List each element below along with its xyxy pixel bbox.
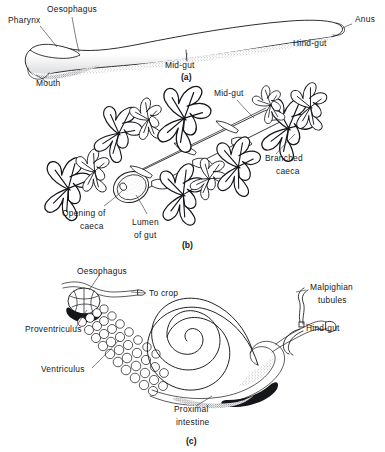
malpighian-tubules-c: [283, 288, 308, 355]
label-to-crop: To crop: [149, 288, 178, 298]
label-opening-of-caeca-1: Opening of: [62, 208, 106, 218]
label-malpighian-tubules-2: tubules: [318, 295, 347, 305]
label-anus: Anus: [355, 14, 375, 24]
label-mouth: Mouth: [36, 78, 61, 88]
label-lumen-of-gut-1: Lumen: [132, 217, 159, 227]
leader-midgut-b: [237, 100, 254, 118]
label-oesophagus-a: Oesophagus: [47, 4, 97, 14]
label-pharynx: Pharynx: [8, 15, 41, 25]
label-mid-gut-a: Mid-gut: [165, 60, 195, 70]
intestine-shade-light-c: [238, 356, 273, 387]
panel-c-illustration: [62, 274, 336, 408]
leader-anus: [343, 24, 352, 28]
label-ventriculus: Ventriculus: [41, 364, 85, 374]
label-proximal-intestine-1: Proximal: [174, 404, 209, 414]
panel-c-caption: (c): [186, 436, 197, 446]
anatomical-figure: Pharynx Oesophagus Mouth Mid-gut Hind-gu…: [0, 0, 385, 452]
label-branched-caeca-2: caeca: [276, 166, 300, 176]
label-mid-gut-b: Mid-gut: [214, 88, 244, 98]
panel-a-caption: (a): [181, 72, 192, 82]
label-hind-gut-a: Hind-gut: [293, 38, 327, 48]
label-opening-of-caeca-2: caeca: [80, 221, 104, 231]
leader-oesophagus: [72, 17, 79, 52]
leader-pharynx: [40, 26, 57, 47]
panel-b-caption: (b): [182, 240, 193, 250]
label-lumen-of-gut-2: of gut: [134, 230, 157, 240]
label-hind-gut-c: Hind-gut: [306, 323, 340, 333]
label-malpighian-tubules-1: Malpighian: [310, 282, 353, 292]
label-branched-caeca-1: Branched: [265, 153, 303, 163]
label-oesophagus-c: Oesophagus: [77, 266, 127, 276]
label-proventriculus: Proventriculus: [25, 324, 82, 334]
label-proximal-intestine-2: intestine: [176, 417, 210, 427]
